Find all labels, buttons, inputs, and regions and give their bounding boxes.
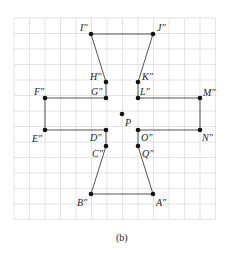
vertex-dot-m: [198, 96, 203, 101]
vertex-label-a: A″: [155, 197, 167, 208]
vertex-label-m: M″: [202, 87, 216, 98]
vertex-dot-k: [136, 80, 141, 85]
vertex-dot-e: [43, 128, 48, 133]
vertex-dot-j: [151, 32, 156, 37]
vertex-label-n: N″: [201, 132, 214, 143]
vertex-label-g: G″: [91, 86, 103, 97]
center-label: P: [124, 117, 131, 128]
vertex-dot-o: [136, 128, 141, 133]
vertex-label-l: L″: [139, 86, 151, 97]
vertex-label-h: H″: [89, 71, 102, 82]
vertex-dot-b: [89, 192, 94, 197]
vertex-dot-a: [151, 192, 156, 197]
vertex-label-f: F″: [33, 86, 45, 97]
vertex-label-k: K″: [141, 71, 154, 82]
grid: [14, 18, 216, 220]
vertex-label-o: O″: [141, 132, 153, 143]
vertex-label-d: D″: [89, 132, 102, 143]
vertex-label-j: J″: [157, 22, 166, 33]
center-point-p: P: [120, 112, 131, 128]
vertex-label-i: I″: [79, 22, 88, 33]
vertex-label-c: C″: [92, 148, 104, 159]
cross-figure: I″J″H″K″G″L″F″M″E″N″D″O″C″Q″B″A″ P (b): [0, 0, 228, 259]
vertex-label-b: B″: [77, 197, 88, 208]
vertex-dot-i: [89, 32, 94, 37]
vertex-dot-c: [104, 144, 109, 149]
figure-caption: (b): [116, 232, 128, 244]
vertex-dot-g: [104, 96, 109, 101]
vertex-dot-h: [104, 80, 109, 85]
center-dot: [120, 112, 125, 117]
vertex-dot-q: [136, 144, 141, 149]
vertex-label-e: E″: [31, 133, 43, 144]
vertex-label-q: Q″: [142, 148, 154, 159]
vertex-dot-d: [104, 128, 109, 133]
